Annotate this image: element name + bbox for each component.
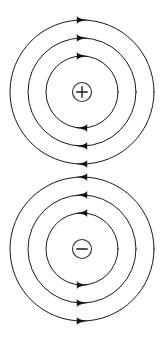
field-direction-arrow-3-1 xyxy=(76,160,88,168)
field-direction-arrow-2-1 xyxy=(76,142,88,150)
field-direction-arrow-1-1 xyxy=(76,124,88,132)
negative-charge-field-group: − xyxy=(10,173,154,325)
field-line-figure: + − xyxy=(0,0,166,341)
field-direction-arrow-2-2 xyxy=(76,191,88,199)
field-direction-arrow-1-2 xyxy=(77,52,89,60)
field-direction-arrow-1-1 xyxy=(77,281,89,289)
field-direction-arrow-2-1 xyxy=(77,299,89,307)
field-direction-arrow-3-2 xyxy=(77,16,89,24)
field-direction-arrow-2-2 xyxy=(77,34,89,42)
field-direction-arrow-3-2 xyxy=(76,173,88,181)
field-direction-arrow-3-1 xyxy=(77,317,89,325)
field-direction-arrow-1-2 xyxy=(76,209,88,217)
positive-charge-field-group: + xyxy=(10,16,154,168)
field-diagram-canvas: + − xyxy=(0,0,166,341)
